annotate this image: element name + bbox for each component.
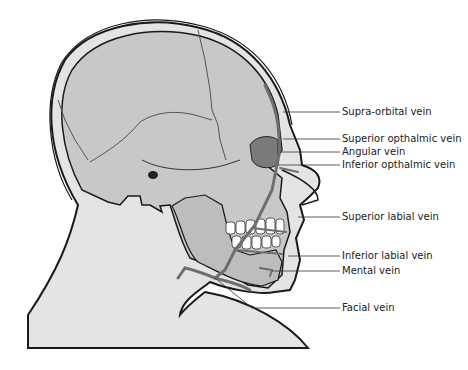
label-superior-opthalmic-vein: Superior opthalmic vein bbox=[342, 133, 462, 145]
label-facial-vein: Facial vein bbox=[342, 302, 395, 314]
label-angular-vein: Angular vein bbox=[342, 146, 405, 158]
label-superior-labial-vein: Superior labial vein bbox=[342, 211, 439, 223]
ear-canal bbox=[148, 171, 158, 179]
label-inferior-labial-vein: Inferior labial vein bbox=[342, 250, 433, 262]
orbit bbox=[250, 137, 278, 168]
label-inferior-opthalmic-vein: Inferior opthalmic vein bbox=[342, 159, 455, 171]
label-mental-vein: Mental vein bbox=[342, 265, 400, 277]
label-supra-orbital-vein: Supra-orbital vein bbox=[342, 106, 432, 118]
head-anatomy-illustration bbox=[0, 0, 468, 370]
